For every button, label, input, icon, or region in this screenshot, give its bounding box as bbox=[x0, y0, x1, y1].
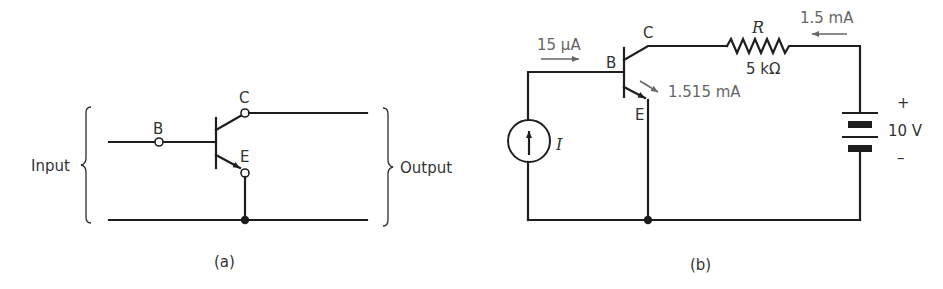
output-label: Output bbox=[400, 159, 452, 177]
base-current-label: 15 μA bbox=[537, 36, 581, 54]
base-label-b: B bbox=[606, 54, 616, 72]
emitter-arrow-icon-b bbox=[624, 87, 645, 98]
battery-voltage-label: 10 V bbox=[888, 122, 923, 140]
output-brace-icon bbox=[383, 108, 393, 226]
source-label: I bbox=[555, 135, 563, 154]
battery-minus-label: – bbox=[897, 149, 905, 167]
junction-dot-b bbox=[644, 216, 652, 224]
collector-terminal-node bbox=[241, 109, 249, 117]
base-terminal-node bbox=[155, 138, 163, 146]
input-brace-icon bbox=[81, 107, 91, 223]
figure-a-common-emitter-two-port: Input B C E Output (a) bbox=[31, 89, 452, 271]
figure-b-caption: (b) bbox=[690, 256, 711, 274]
resistor-value-label: 5 kΩ bbox=[746, 60, 780, 78]
input-label: Input bbox=[31, 157, 70, 175]
battery-plate-short-1 bbox=[848, 121, 872, 128]
figure-a-caption: (a) bbox=[214, 253, 235, 271]
emitter-label: E bbox=[240, 148, 249, 166]
circuit-figure: Input B C E Output (a) I 15 μ bbox=[0, 0, 943, 289]
emitter-label-b: E bbox=[635, 106, 644, 124]
collector-current-label: 1.5 mA bbox=[800, 9, 854, 27]
source-to-base-wire bbox=[528, 72, 624, 120]
resistor-name-label: R bbox=[751, 18, 764, 37]
emitter-terminal-node bbox=[241, 169, 249, 177]
base-label: B bbox=[153, 120, 163, 138]
emitter-arrow-icon bbox=[216, 155, 240, 168]
collector-lead bbox=[216, 115, 242, 130]
junction-dot bbox=[241, 216, 249, 224]
collector-wire-b bbox=[624, 46, 727, 60]
collector-label-b: C bbox=[643, 24, 653, 42]
emitter-current-label: 1.515 mA bbox=[668, 83, 741, 101]
battery-plus-label: + bbox=[897, 94, 910, 112]
figure-b-biased-transistor-circuit: I 15 μA B C E 1.515 mA R 5 kΩ 1.5 mA + 1… bbox=[508, 9, 923, 274]
collector-label: C bbox=[239, 89, 249, 107]
emitter-current-arrow-icon bbox=[640, 81, 658, 92]
